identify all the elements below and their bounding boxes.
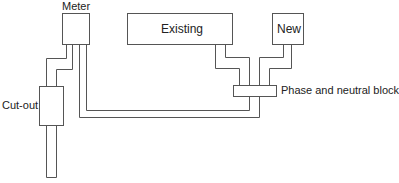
existing-wire-1 (216, 45, 240, 86)
meter-label: Meter (62, 1, 90, 12)
cutout-box (40, 87, 64, 126)
phase-neutral-block (234, 86, 277, 97)
existing-wire-2 (226, 45, 250, 86)
new-wire-2 (270, 45, 292, 86)
meter-box (63, 14, 90, 45)
new-wire-1 (260, 45, 284, 86)
meter-block-wire-outer (80, 45, 260, 118)
existing-label: Existing (161, 23, 203, 35)
new-label: New (277, 23, 301, 35)
meter-cutout-wire-2 (57, 45, 73, 87)
cutout-label: Cut-out (2, 100, 38, 111)
block-label: Phase and neutral block (281, 85, 399, 96)
supply-tail (47, 126, 57, 178)
